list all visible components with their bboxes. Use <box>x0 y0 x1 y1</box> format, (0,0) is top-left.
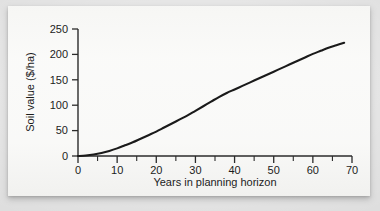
y-tick-label: 100 <box>50 99 68 111</box>
x-tick-label: 10 <box>111 164 123 176</box>
chart-plot-area: 050100150200250 010203040506070 Years in… <box>0 0 380 211</box>
x-tick-label: 50 <box>268 164 280 176</box>
x-tick-label: 0 <box>75 164 81 176</box>
x-tick-label: 70 <box>346 164 358 176</box>
y-tick-label: 0 <box>62 150 68 162</box>
y-tick-label: 50 <box>56 124 68 136</box>
line-chart: 050100150200250 010203040506070 Years in… <box>0 0 380 211</box>
x-tick-label: 30 <box>189 164 201 176</box>
x-axis-title: Years in planning horizon <box>153 176 276 188</box>
x-tick-label: 20 <box>150 164 162 176</box>
y-tick-label: 200 <box>50 48 68 60</box>
data-series-line <box>78 43 344 156</box>
figure-root: 050100150200250 010203040506070 Years in… <box>0 0 380 211</box>
y-tick-label: 150 <box>50 74 68 86</box>
y-axis-tick-labels: 050100150200250 <box>50 23 68 162</box>
y-axis-ticks <box>72 29 78 156</box>
x-axis-tick-labels: 010203040506070 <box>75 164 358 176</box>
y-tick-label: 250 <box>50 23 68 35</box>
x-axis-minor-ticks <box>98 156 333 161</box>
y-axis-title: Soil value ($/ha) <box>24 52 36 132</box>
x-tick-label: 60 <box>307 164 319 176</box>
x-tick-label: 40 <box>228 164 240 176</box>
